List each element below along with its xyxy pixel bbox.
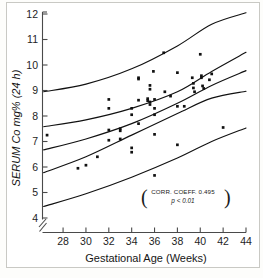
x-tick-labels: 283032343638404244 [57,235,252,247]
x-tick-label: 42 [217,235,229,247]
data-point [153,174,156,177]
data-point [191,76,194,79]
data-point [149,88,152,91]
annotation-pvalue: p < 0.01 [170,197,195,205]
data-point [163,90,166,93]
y-tick-label: 5 [32,186,38,198]
data-point [210,73,213,76]
data-point [149,103,152,106]
y-tick-label: 11 [27,33,38,45]
data-point [149,101,152,104]
data-point [107,129,110,132]
data-point [153,107,156,110]
data-point [201,85,204,88]
x-tick-group [63,228,246,233]
y-tick-label: 7 [32,135,38,147]
x-tick-label: 30 [80,235,92,247]
data-point [169,95,172,98]
y-tick-labels: 456789101112 [26,8,38,224]
annotation-corr-coeff: CORR. COEFF. 0.495 [151,188,215,195]
data-point [149,84,152,87]
y-axis-break-mark-2 [40,223,47,232]
curve-lower-inner-band [44,91,246,172]
x-axis-title: Gestational Age (Weeks) [85,252,206,264]
x-tick-label: 28 [57,235,69,247]
x-tick-label: 44 [240,235,252,247]
data-point [153,98,156,101]
data-point [153,113,156,116]
y-axis-title: SERUM Co mg% (24 h) [10,69,22,186]
data-point [183,105,186,108]
data-point [130,107,133,110]
data-point [107,139,110,142]
data-point [152,70,155,73]
y-tick-label: 6 [32,161,38,173]
y-tick-group [43,14,48,218]
x-tick-label: 40 [194,235,206,247]
x-tick-label: 32 [103,235,115,247]
data-point [130,113,133,116]
data-point [130,151,133,154]
x-tick-label: 34 [126,235,138,247]
data-points [46,51,225,176]
correlation-annotation: ( ) CORR. COEFF. 0.495 p < 0.01 [141,186,231,209]
data-point [202,87,205,90]
data-point [119,129,122,132]
curve-upper-outer-band [44,13,246,92]
y-tick-label: 8 [32,110,38,122]
annotation-paren-right: ) [224,186,231,209]
data-point [96,155,99,158]
curve-regression-line [44,71,246,150]
data-point [137,122,140,125]
data-point [137,78,140,81]
annotation-paren-left: ( [141,186,148,209]
data-point [153,133,156,136]
data-point [192,82,195,85]
scatter-plot: 456789101112 283032343638404244 SERUM Co… [0,0,263,278]
y-tick-label: 4 [32,212,38,224]
data-point [199,53,202,56]
data-point [192,87,195,90]
data-point [193,90,196,93]
data-point [200,76,203,79]
regression-curves [44,13,246,207]
data-point [137,99,140,102]
data-point [85,164,88,167]
data-point [130,147,133,150]
y-tick-label: 12 [26,8,38,20]
data-point [176,143,179,146]
y-tick-label: 10 [26,59,38,71]
y-tick-label: 9 [32,84,38,96]
data-point [208,78,211,81]
y-axis-break-mark [39,219,46,227]
data-point [176,71,179,74]
x-tick-label: 38 [172,235,184,247]
data-point [107,98,110,101]
data-point [77,167,80,170]
data-point [176,105,179,108]
data-point [107,107,110,110]
figure-container: 456789101112 283032343638404244 SERUM Co… [0,0,263,278]
data-point [162,51,165,54]
data-point [46,134,49,137]
data-point [119,138,122,141]
x-tick-label: 36 [149,235,161,247]
data-point [222,126,225,129]
